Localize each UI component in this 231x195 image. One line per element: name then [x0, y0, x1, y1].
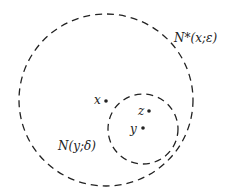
neighborhood-diagram: x z y N*(x;ε) N(y;δ) — [0, 0, 231, 195]
big-neighborhood-label: N*(x;ε) — [173, 31, 217, 45]
point-z-dot — [147, 109, 151, 113]
point-x-label: x — [94, 93, 101, 107]
point-x-dot — [104, 99, 108, 103]
point-z-label: z — [137, 104, 145, 118]
point-y-dot — [141, 126, 145, 130]
point-y-label: y — [129, 122, 137, 136]
small-neighborhood-label: N(y;δ) — [57, 139, 96, 153]
